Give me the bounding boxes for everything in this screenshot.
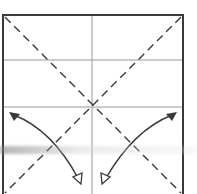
left-arrow-hollow-head-icon	[73, 173, 82, 184]
scan-blur-band	[0, 146, 197, 154]
origami-fold-diagram	[0, 0, 197, 194]
valley-folds	[5, 17, 181, 193]
